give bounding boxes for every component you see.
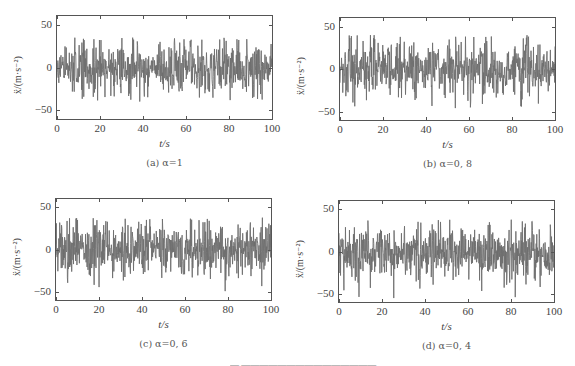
- x-axis-label: t/s: [145, 137, 185, 149]
- signal-trace-c: [56, 199, 271, 300]
- x-tick-label: 0: [325, 123, 355, 135]
- y-tick-mark: [269, 25, 272, 26]
- x-tick-label: 60: [453, 305, 483, 317]
- subplot-caption-c: (c) α=0, 6: [94, 338, 234, 349]
- y-tick-label: 0: [305, 62, 335, 74]
- x-tick-mark: [512, 117, 513, 120]
- x-tick-label: 20: [367, 305, 397, 317]
- y-tick-label: 50: [305, 20, 335, 32]
- x-tick-mark: [185, 297, 186, 300]
- x-tick-mark: [143, 16, 144, 19]
- x-tick-mark: [339, 201, 340, 204]
- x-tick-mark: [555, 117, 556, 120]
- x-tick-label: 60: [171, 122, 201, 134]
- x-tick-mark: [339, 299, 340, 302]
- y-tick-mark: [57, 25, 60, 26]
- x-tick-label: 40: [411, 123, 441, 135]
- x-tick-mark: [426, 18, 427, 21]
- y-tick-mark: [340, 27, 343, 28]
- x-axis-label: t/s: [428, 138, 468, 150]
- y-tick-mark: [57, 68, 60, 69]
- y-tick-mark: [552, 112, 555, 113]
- y-tick-label: 0: [304, 245, 334, 257]
- y-tick-mark: [269, 68, 272, 69]
- x-tick-mark: [469, 117, 470, 120]
- signal-trace-b: [340, 18, 555, 120]
- x-tick-mark: [425, 201, 426, 204]
- x-tick-mark: [186, 116, 187, 119]
- y-tick-mark: [339, 209, 342, 210]
- x-tick-mark: [383, 117, 384, 120]
- x-tick-mark: [99, 297, 100, 300]
- x-tick-label: 100: [256, 303, 286, 315]
- x-tick-mark: [469, 18, 470, 21]
- x-tick-mark: [512, 18, 513, 21]
- y-tick-mark: [340, 69, 343, 70]
- y-tick-mark: [551, 294, 554, 295]
- x-tick-mark: [555, 18, 556, 21]
- y-tick-mark: [552, 69, 555, 70]
- subplot-caption-b: (b) α=0, 8: [378, 158, 518, 169]
- x-tick-label: 40: [410, 305, 440, 317]
- x-tick-mark: [511, 299, 512, 302]
- y-tick-mark: [57, 110, 60, 111]
- x-tick-mark: [100, 116, 101, 119]
- y-tick-mark: [340, 112, 343, 113]
- y-tick-mark: [552, 27, 555, 28]
- signal-trace-d: [339, 201, 554, 302]
- x-tick-mark: [142, 297, 143, 300]
- x-tick-label: 80: [214, 122, 244, 134]
- x-tick-mark: [272, 16, 273, 19]
- x-tick-label: 100: [257, 122, 287, 134]
- x-tick-label: 20: [368, 123, 398, 135]
- x-tick-label: 20: [85, 122, 115, 134]
- x-tick-mark: [554, 299, 555, 302]
- y-tick-mark: [56, 207, 59, 208]
- x-tick-mark: [468, 201, 469, 204]
- y-tick-mark: [268, 292, 271, 293]
- figure-caption-cut: ▬ ▬▬▬▬▬▬▬▬▬▬▬▬▬▬▬: [230, 360, 380, 366]
- y-tick-label: 50: [22, 18, 52, 30]
- x-tick-mark: [229, 16, 230, 19]
- x-tick-mark: [272, 116, 273, 119]
- x-tick-mark: [142, 199, 143, 202]
- x-tick-mark: [228, 199, 229, 202]
- x-tick-label: 60: [454, 123, 484, 135]
- x-tick-mark: [383, 18, 384, 21]
- x-tick-mark: [57, 16, 58, 19]
- plot-area-b: [339, 17, 556, 121]
- x-tick-mark: [382, 299, 383, 302]
- y-tick-mark: [268, 207, 271, 208]
- subplot-caption-d: (d) α=0, 4: [377, 340, 517, 351]
- plot-area-d: [338, 200, 555, 303]
- x-tick-label: 60: [170, 303, 200, 315]
- x-tick-mark: [271, 297, 272, 300]
- x-tick-mark: [340, 117, 341, 120]
- y-tick-label: −50: [22, 103, 52, 115]
- x-tick-label: 100: [540, 123, 570, 135]
- x-tick-label: 100: [539, 305, 569, 317]
- y-tick-mark: [268, 250, 271, 251]
- y-axis-label: ẍ/(m·s⁻²): [295, 57, 306, 95]
- x-axis-label: t/s: [427, 320, 467, 332]
- y-tick-mark: [56, 250, 59, 251]
- y-tick-mark: [56, 292, 59, 293]
- x-tick-mark: [340, 18, 341, 21]
- x-tick-mark: [228, 297, 229, 300]
- y-tick-label: 0: [21, 243, 51, 255]
- y-axis-label: ẍ/(m·s⁻²): [11, 238, 22, 276]
- signal-trace-a: [57, 16, 272, 119]
- y-tick-mark: [339, 252, 342, 253]
- x-tick-label: 80: [213, 303, 243, 315]
- plot-area-c: [55, 198, 272, 301]
- x-tick-label: 20: [84, 303, 114, 315]
- x-tick-mark: [185, 199, 186, 202]
- y-tick-mark: [269, 110, 272, 111]
- y-tick-mark: [551, 209, 554, 210]
- x-tick-mark: [468, 299, 469, 302]
- y-tick-label: 0: [22, 61, 52, 73]
- y-axis-label: ẍ/(m·s⁻²): [294, 240, 305, 278]
- x-tick-label: 80: [496, 305, 526, 317]
- y-tick-label: 50: [304, 202, 334, 214]
- x-tick-mark: [57, 116, 58, 119]
